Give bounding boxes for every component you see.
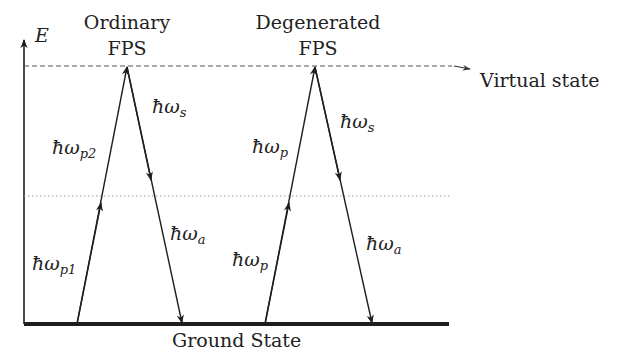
virtual-state-label: Virtual state bbox=[480, 70, 599, 90]
ordinary-pump2-label: ħωp2 bbox=[52, 136, 96, 161]
degenerated-pump1-label: ħωp bbox=[232, 248, 268, 273]
fps-energy-diagram: E Ordinary FPS Degenerated FPS ħωp2 ħωp1… bbox=[0, 0, 635, 356]
ordinary-fps-subtitle: FPS bbox=[77, 38, 177, 58]
degenerated-idler-label: ħωa bbox=[366, 232, 402, 257]
ground-state-label: Ground State bbox=[172, 330, 301, 350]
degenerated-signal-label: ħωs bbox=[340, 110, 374, 135]
energy-axis-label: E bbox=[35, 24, 49, 46]
degenerated-fps-title: Degenerated bbox=[248, 12, 388, 32]
ordinary-pump1-label: ħωp1 bbox=[32, 252, 76, 277]
ordinary-signal-label: ħωs bbox=[152, 95, 186, 120]
degenerated-fps-subtitle: FPS bbox=[248, 38, 388, 58]
ordinary-idler-label: ħωa bbox=[170, 222, 206, 247]
degenerated-pump2-label: ħωp bbox=[252, 135, 288, 160]
virtual-state-pointer bbox=[454, 66, 470, 69]
ordinary-fps-title: Ordinary bbox=[77, 12, 177, 32]
